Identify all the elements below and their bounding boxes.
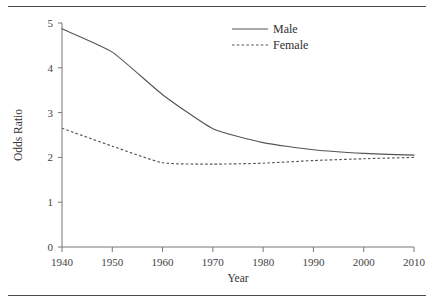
- legend-label-male: Male: [273, 22, 298, 36]
- bottom-horizontal-rule: [8, 295, 426, 296]
- top-horizontal-rule: [8, 6, 426, 7]
- x-tick-label: 1980: [252, 256, 275, 268]
- y-tick-label: 1: [48, 196, 54, 208]
- y-tick-label: 4: [48, 62, 54, 74]
- y-tick-label: 3: [48, 107, 54, 119]
- x-tick-label: 2010: [403, 256, 426, 268]
- x-axis-title: Year: [227, 272, 248, 284]
- x-tick-label: 2000: [353, 256, 376, 268]
- y-tick-label: 0: [48, 241, 54, 253]
- line-chart: 012345 19401950196019701980199020002010 …: [0, 12, 434, 287]
- legend: Male Female: [232, 22, 308, 52]
- x-tick-label: 1990: [302, 256, 325, 268]
- y-axis-ticks: 012345: [48, 17, 63, 253]
- y-axis-title: Odds Ratio: [12, 109, 24, 161]
- x-tick-label: 1940: [51, 256, 74, 268]
- legend-label-female: Female: [273, 38, 308, 52]
- x-tick-label: 1970: [202, 256, 225, 268]
- y-tick-label: 2: [48, 151, 54, 163]
- series-line-female: [62, 128, 414, 164]
- figure-container: 012345 19401950196019701980199020002010 …: [0, 0, 434, 305]
- series-line-male: [62, 29, 414, 155]
- y-tick-label: 5: [48, 17, 54, 29]
- plot-area: 012345 19401950196019701980199020002010 …: [0, 12, 434, 287]
- x-axis-ticks: 19401950196019701980199020002010: [51, 247, 426, 268]
- x-tick-label: 1960: [152, 256, 175, 268]
- x-tick-label: 1950: [101, 256, 124, 268]
